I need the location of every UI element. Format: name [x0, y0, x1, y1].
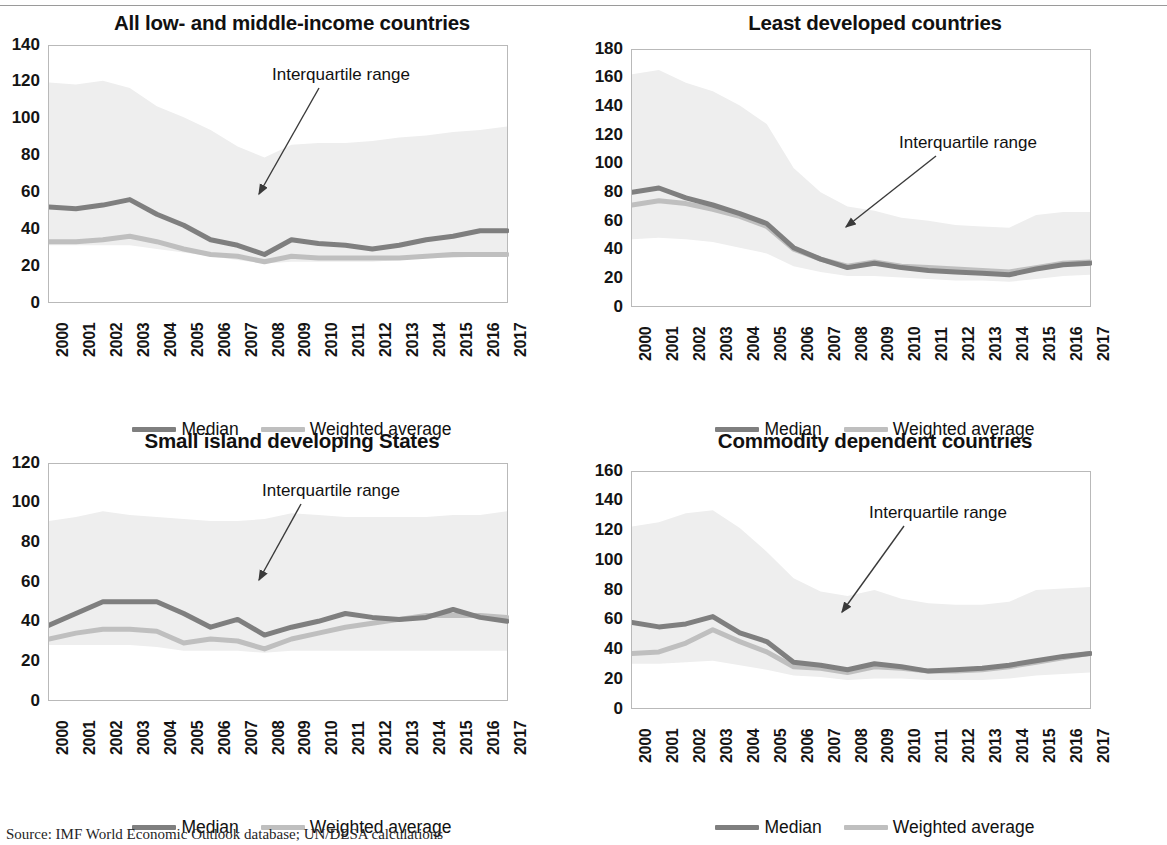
- x-axis-labels: 2000200120022003200420052006200720082009…: [48, 707, 508, 763]
- y-axis-tick-label: 140: [595, 96, 623, 116]
- x-axis-tick-label: 2001: [664, 326, 682, 360]
- x-axis-tick-label: 2003: [718, 728, 736, 762]
- median-swatch-icon: [715, 825, 759, 830]
- y-axis-tick-label: 80: [21, 532, 40, 552]
- x-axis-tick-label: 2001: [664, 728, 682, 762]
- x-axis-tick-label: 2000: [54, 322, 72, 356]
- x-axis-tick-label: 2016: [485, 322, 503, 356]
- x-axis-tick-label: 2011: [933, 327, 951, 361]
- panel-title: All low- and middle-income countries: [0, 8, 584, 35]
- x-axis-tick-label: 2000: [637, 326, 655, 360]
- top-divider-rule: [0, 5, 1167, 6]
- chart-grid: All low- and middle-income countries 020…: [0, 8, 1167, 820]
- x-axis-tick-label: 2009: [879, 326, 897, 360]
- y-axis-tick-label: 160: [595, 67, 623, 87]
- x-axis-tick-label: 2013: [404, 720, 422, 754]
- x-axis-tick-label: 2005: [189, 322, 207, 356]
- x-axis-tick-label: 2017: [512, 720, 530, 754]
- y-axis-tick-label: 120: [12, 453, 40, 473]
- x-axis-labels: 2000200120022003200420052006200720082009…: [631, 715, 1091, 771]
- interquartile-range-band: [632, 69, 1090, 281]
- x-axis-tick-label: 2002: [691, 728, 709, 762]
- x-axis-tick-label: 2015: [1041, 326, 1059, 360]
- y-axis-tick-label: 100: [12, 492, 40, 512]
- interquartile-range-annotation-label: Interquartile range: [899, 133, 1037, 153]
- panel-all-low-and-middle-income-countries: All low- and middle-income countries 020…: [0, 8, 584, 426]
- x-axis-labels: 2000200120022003200420052006200720082009…: [631, 313, 1091, 369]
- x-axis-tick-label: 2004: [745, 728, 763, 762]
- x-axis-tick-label: 2002: [691, 326, 709, 360]
- x-axis-tick-label: 2011: [933, 729, 951, 763]
- plot-box: [631, 471, 1091, 709]
- panel-commodity-dependent-countries: Commodity dependent countries 0204060801…: [583, 426, 1167, 820]
- legend-label-weighted-average: Weighted average: [893, 817, 1035, 838]
- panel-title: Small island developing States: [0, 426, 584, 453]
- x-axis-tick-label: 2007: [826, 326, 844, 360]
- x-axis-tick-label: 2001: [81, 720, 99, 754]
- x-axis-tick-label: 2012: [960, 728, 978, 762]
- y-axis-tick-label: 100: [595, 550, 623, 570]
- y-axis-tick-label: 20: [604, 669, 623, 689]
- x-axis-tick-label: 2008: [853, 326, 871, 360]
- x-axis-tick-label: 2007: [243, 720, 261, 754]
- x-axis-tick-label: 2003: [718, 326, 736, 360]
- x-axis-tick-label: 2002: [108, 720, 126, 754]
- x-axis-tick-label: 2012: [960, 326, 978, 360]
- legend-item-weighted-average[interactable]: Weighted average: [844, 817, 1035, 838]
- x-axis-tick-label: 2015: [458, 720, 476, 754]
- x-axis-tick-label: 2004: [162, 322, 180, 356]
- y-axis-tick-label: 140: [595, 490, 623, 510]
- x-axis-tick-label: 2010: [323, 720, 341, 754]
- y-axis-tick-label: 60: [604, 211, 623, 231]
- x-axis-tick-label: 2015: [458, 322, 476, 356]
- y-axis-tick-label: 40: [21, 611, 40, 631]
- y-axis-labels: 020406080100120140160180: [583, 49, 625, 307]
- x-axis-tick-label: 2012: [377, 322, 395, 356]
- x-axis-tick-label: 2008: [270, 322, 288, 356]
- x-axis-tick-label: 2006: [799, 728, 817, 762]
- x-axis-tick-label: 2005: [189, 720, 207, 754]
- y-axis-tick-label: 20: [604, 268, 623, 288]
- x-axis-tick-label: 2006: [216, 720, 234, 754]
- weighted-average-swatch-icon: [844, 825, 888, 830]
- y-axis-tick-label: 40: [604, 639, 623, 659]
- x-axis-tick-label: 2004: [162, 720, 180, 754]
- y-axis-tick-label: 60: [604, 609, 623, 629]
- y-axis-tick-label: 20: [21, 256, 40, 276]
- source-note: Source: IMF World Economic Outlook datab…: [6, 826, 443, 843]
- x-axis-tick-label: 2016: [485, 720, 503, 754]
- x-axis-tick-label: 2012: [377, 720, 395, 754]
- x-axis-tick-label: 2000: [637, 728, 655, 762]
- x-axis-tick-label: 2013: [987, 326, 1005, 360]
- y-axis-tick-label: 120: [12, 71, 40, 91]
- x-axis-tick-label: 2011: [350, 323, 368, 357]
- y-axis-tick-label: 80: [604, 580, 623, 600]
- x-axis-tick-label: 2002: [108, 322, 126, 356]
- y-axis-tick-label: 0: [31, 293, 40, 313]
- y-axis-tick-label: 80: [21, 145, 40, 165]
- legend-item-median[interactable]: Median: [715, 817, 821, 838]
- x-axis-tick-label: 2005: [772, 728, 790, 762]
- x-axis-tick-label: 2010: [906, 326, 924, 360]
- x-axis-tick-label: 2010: [323, 322, 341, 356]
- panel-least-developed-countries: Least developed countries 02040608010012…: [583, 8, 1167, 426]
- panel-title: Commodity dependent countries: [583, 426, 1167, 453]
- x-axis-tick-label: 2009: [296, 720, 314, 754]
- x-axis-tick-label: 2001: [81, 322, 99, 356]
- y-axis-labels: 020406080100120140: [0, 45, 42, 303]
- x-axis-tick-label: 2007: [243, 322, 261, 356]
- x-axis-tick-label: 2014: [431, 322, 449, 356]
- interquartile-range-annotation-label: Interquartile range: [262, 481, 400, 501]
- y-axis-tick-label: 60: [21, 572, 40, 592]
- x-axis-tick-label: 2013: [404, 322, 422, 356]
- x-axis-tick-label: 2007: [826, 728, 844, 762]
- x-axis-tick-label: 2005: [772, 326, 790, 360]
- y-axis-tick-label: 120: [595, 125, 623, 145]
- panel-title: Least developed countries: [583, 8, 1167, 35]
- x-axis-tick-label: 2016: [1068, 326, 1086, 360]
- y-axis-tick-label: 20: [21, 651, 40, 671]
- y-axis-tick-label: 0: [614, 297, 623, 317]
- x-axis-tick-label: 2011: [350, 721, 368, 755]
- y-axis-tick-label: 100: [595, 153, 623, 173]
- y-axis-tick-label: 0: [31, 691, 40, 711]
